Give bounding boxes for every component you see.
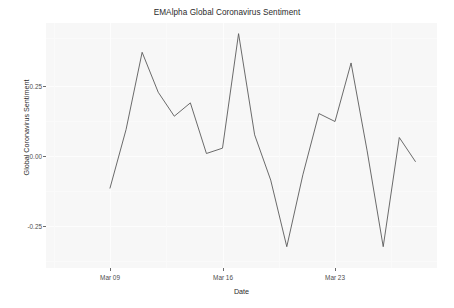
ytick-mark-025 <box>43 86 46 87</box>
ytick-mark-000 <box>43 156 46 157</box>
ytick-mark-neg025 <box>43 226 46 227</box>
chart-figure: EMAlpha Global Coronavirus Sentiment 0.2… <box>0 0 454 308</box>
xtick-mark-mar23 <box>335 268 336 271</box>
xtick-label-mar23: Mar 23 <box>325 274 345 281</box>
x-axis-ticks: Mar 09 Mar 16 Mar 23 <box>46 268 437 288</box>
plot-panel <box>46 23 437 268</box>
ytick-label-025: 0.25 <box>30 83 42 90</box>
y-axis-title: Global Coronavirus Sentiment <box>22 58 31 198</box>
xtick-mark-mar09 <box>110 268 111 271</box>
chart-title: EMAlpha Global Coronavirus Sentiment <box>0 8 454 17</box>
xtick-label-mar16: Mar 16 <box>213 274 233 281</box>
xtick-mark-mar16 <box>223 268 224 271</box>
ytick-label-000: 0.00 <box>30 153 42 160</box>
x-axis-title: Date <box>46 287 437 296</box>
sentiment-line-series <box>46 23 437 268</box>
xtick-label-mar09: Mar 09 <box>100 274 120 281</box>
ytick-label-neg025: -0.25 <box>27 223 42 230</box>
